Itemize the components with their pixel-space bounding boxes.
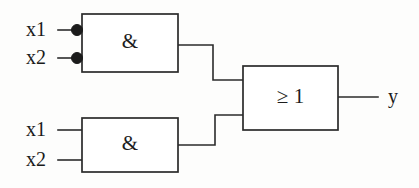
inverter-bubble-group: [72, 25, 83, 64]
input-label-x1-top: x1: [26, 18, 46, 40]
wire-and-bottom-to-or: [178, 115, 243, 145]
input-label-x2-top: x2: [26, 46, 46, 68]
circuit-diagram-canvas: & & ≥ 1 x1 x2 x1 x2 y: [0, 0, 419, 188]
input-label-x1-bottom: x1: [26, 118, 46, 140]
or-gate-label: ≥ 1: [277, 84, 304, 108]
and-gate-bottom[interactable]: &: [82, 118, 178, 172]
output-label-y: y: [388, 85, 398, 108]
and-gate-bottom-label: &: [122, 131, 138, 155]
and-gate-top[interactable]: &: [82, 14, 178, 72]
inverting-bubble-icon-x2: [72, 53, 83, 64]
inverting-bubble-icon-x1: [72, 25, 83, 36]
input-label-x2-bottom: x2: [26, 148, 46, 170]
or-gate[interactable]: ≥ 1: [243, 66, 338, 130]
and-gate-top-label: &: [122, 29, 138, 53]
wire-and-top-to-or: [178, 45, 243, 80]
logic-circuit-schematic: & & ≥ 1 x1 x2 x1 x2 y: [0, 0, 419, 188]
